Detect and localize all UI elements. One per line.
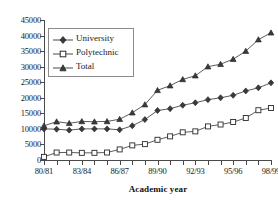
data-point — [129, 110, 135, 115]
x-axis-title: Academic year — [44, 184, 272, 194]
data-point — [269, 106, 274, 111]
data-point — [192, 73, 198, 78]
data-point — [105, 150, 110, 155]
data-point — [193, 129, 198, 134]
diamond-marker-icon — [52, 32, 74, 44]
data-point — [117, 127, 122, 133]
legend-item-polytechnic: Polytechnic — [52, 45, 130, 59]
data-point — [117, 147, 122, 152]
data-point — [255, 37, 261, 42]
data-point — [218, 61, 224, 66]
data-point — [256, 108, 261, 113]
data-point — [193, 100, 198, 106]
data-point — [117, 116, 123, 121]
data-point — [54, 119, 60, 124]
series-line — [44, 108, 271, 157]
data-point — [243, 88, 248, 94]
data-point — [67, 150, 72, 155]
data-point — [130, 123, 135, 129]
legend-label-polytechnic: Polytechnic — [74, 48, 119, 57]
legend-label-university: University — [74, 34, 114, 43]
data-point — [92, 126, 97, 132]
data-point — [79, 150, 84, 155]
data-point — [92, 150, 97, 155]
data-point — [104, 126, 109, 132]
data-point — [54, 150, 59, 155]
square-marker-icon — [52, 46, 74, 58]
legend-label-total: Total — [74, 62, 94, 71]
data-point — [218, 95, 223, 101]
data-point — [218, 122, 223, 127]
data-point — [142, 142, 147, 147]
data-point — [168, 134, 173, 139]
data-point — [205, 97, 210, 103]
data-point — [54, 126, 59, 132]
data-point — [205, 124, 210, 129]
data-point — [67, 127, 72, 133]
data-point — [180, 130, 185, 135]
legend-item-total: Total — [52, 59, 130, 73]
chart-legend: University Polytechnic Total — [48, 28, 134, 77]
data-point — [167, 83, 173, 88]
data-point — [42, 154, 47, 159]
data-point — [142, 117, 147, 123]
data-point — [268, 80, 273, 86]
triangle-marker-icon — [52, 60, 74, 72]
data-point — [79, 126, 84, 132]
data-point — [167, 106, 172, 112]
plot-area — [0, 0, 278, 212]
data-point — [256, 85, 261, 91]
legend-item-university: University — [52, 31, 130, 45]
data-point — [243, 116, 248, 121]
data-point — [180, 102, 185, 108]
data-point — [231, 120, 236, 125]
line-chart: 0500010000150002000025000300003500040000… — [0, 0, 278, 212]
data-point — [130, 143, 135, 148]
data-point — [230, 56, 236, 61]
data-point — [268, 30, 274, 35]
data-point — [155, 137, 160, 142]
data-point — [230, 92, 235, 98]
data-point — [155, 108, 160, 114]
